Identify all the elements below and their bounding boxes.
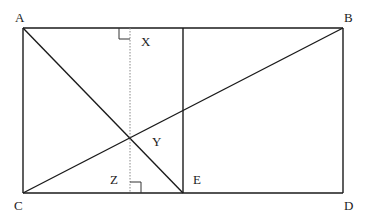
right-angle-mark-z bbox=[130, 182, 141, 193]
label-x: X bbox=[141, 34, 151, 49]
label-z: Z bbox=[110, 172, 118, 187]
geometry-diagram: A B C D E X Y Z bbox=[0, 0, 366, 219]
label-e: E bbox=[193, 172, 201, 187]
segment-ae bbox=[23, 28, 183, 193]
label-y: Y bbox=[152, 134, 162, 149]
label-c: C bbox=[14, 198, 23, 213]
right-angle-mark-x bbox=[119, 28, 130, 39]
label-a: A bbox=[15, 10, 25, 25]
label-b: B bbox=[344, 10, 353, 25]
label-d: D bbox=[344, 198, 353, 213]
